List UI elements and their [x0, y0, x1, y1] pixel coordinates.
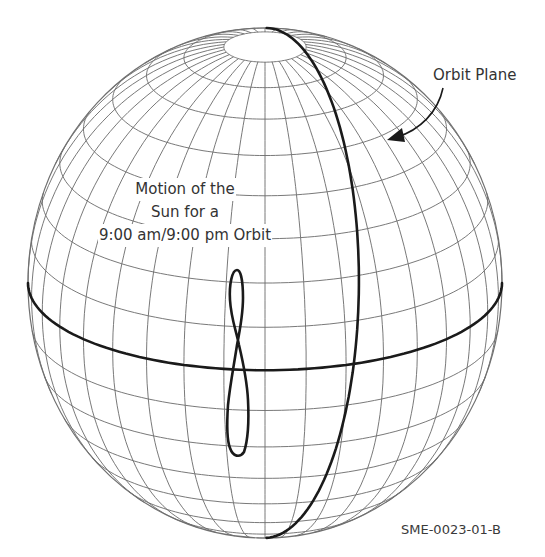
figure-id-label: SME-0023-01-B — [401, 518, 501, 541]
meridian-line — [304, 52, 488, 465]
arrowhead-icon — [387, 128, 405, 142]
sun-motion-line-3: 9:00 am/9:00 pm Orbit — [98, 224, 272, 247]
meridian-line — [55, 44, 224, 164]
latitude-longitude-grid — [28, 28, 502, 538]
meridian-line — [105, 42, 227, 95]
meridian-line — [297, 57, 447, 519]
meridian-line — [286, 60, 384, 532]
meridian-line — [83, 57, 233, 519]
parallel-line — [224, 32, 306, 62]
sun-motion-label: Motion of the Sun for a 9:00 am/9:00 pm … — [85, 178, 285, 247]
meridian-line — [251, 29, 258, 33]
meridian-line — [42, 52, 226, 465]
meridian-line — [306, 44, 475, 164]
meridian-line — [279, 61, 346, 536]
meridian-line — [304, 42, 426, 95]
meridian-line — [184, 61, 251, 536]
meridian-line — [301, 55, 471, 503]
meridian-line — [60, 55, 230, 503]
sun-analemma-figure-eight — [227, 270, 248, 456]
orbit-plane-arrow — [397, 88, 443, 137]
sun-motion-line-2: Sun for a — [150, 201, 220, 224]
sun-motion-line-1: Motion of the — [134, 178, 235, 201]
orbit-plane-label: Orbit Plane — [433, 64, 516, 87]
meridian-line — [272, 62, 306, 537]
